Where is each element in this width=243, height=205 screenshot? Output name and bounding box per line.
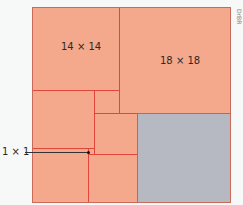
leader-line-1x1 — [25, 152, 89, 153]
leader-dot-1x1 — [87, 151, 90, 154]
image-credit: DrBR — [236, 9, 243, 24]
outer-square-border — [32, 7, 231, 203]
label-18x18: 18 × 18 — [160, 55, 200, 66]
label-14x14: 14 × 14 — [61, 41, 101, 52]
